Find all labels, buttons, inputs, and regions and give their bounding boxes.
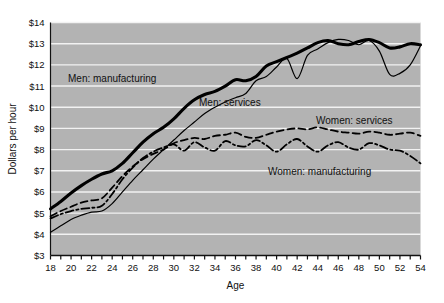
x-axis-tick-label: 50 — [374, 262, 385, 273]
y-axis-tick-label: $6 — [34, 186, 45, 197]
y-axis-title: Dollars per hour — [7, 103, 18, 175]
y-axis-tick-label: $4 — [34, 229, 45, 240]
x-axis-tick-label: 34 — [210, 262, 221, 273]
y-axis-tick-label: $3 — [34, 250, 45, 261]
x-axis-tick-label: 48 — [354, 262, 365, 273]
x-axis-tick-label: 24 — [107, 262, 118, 273]
y-axis-tick-label: $10 — [29, 102, 45, 113]
x-axis-tick-label: 20 — [66, 262, 77, 273]
x-axis-tick-label: 36 — [230, 262, 241, 273]
plot-area-background — [51, 23, 421, 256]
series-annotation-label: Women: manufacturing — [268, 166, 371, 177]
x-axis-tick-label: 46 — [333, 262, 344, 273]
x-axis-tick-label: 44 — [312, 262, 323, 273]
y-axis-tick-label: $9 — [34, 123, 45, 134]
y-axis-tick-label: $5 — [34, 208, 45, 219]
chart-container: $3$4$5$6$7$8$9$10$11$12$13$14 1820222426… — [0, 0, 444, 303]
x-axis-tick-label: 42 — [292, 262, 303, 273]
y-axis-tick-label: $13 — [29, 38, 45, 49]
x-axis-tick-label: 52 — [395, 262, 406, 273]
y-axis-tick-label: $7 — [34, 165, 45, 176]
x-axis-title: Age — [227, 280, 245, 291]
x-axis-tick-label: 22 — [86, 262, 97, 273]
y-axis-tick-label: $14 — [29, 17, 45, 28]
series-annotation-label: Women: services — [316, 115, 393, 126]
x-axis-tick-label: 28 — [148, 262, 159, 273]
line-chart-figure: $3$4$5$6$7$8$9$10$11$12$13$14 1820222426… — [0, 0, 444, 303]
x-axis-tick-label: 38 — [251, 262, 262, 273]
x-axis-tick-label: 40 — [271, 262, 282, 273]
series-annotation-label: Men: manufacturing — [68, 73, 156, 84]
x-axis-tick-label: 18 — [45, 262, 56, 273]
series-annotation-label: Men: services — [199, 97, 261, 108]
y-axis-tick-label: $8 — [34, 144, 45, 155]
x-axis-tick-label: 32 — [189, 262, 200, 273]
x-axis-tick-label: 26 — [127, 262, 138, 273]
x-axis-tick-label: 30 — [169, 262, 180, 273]
y-axis-tick-label: $12 — [29, 59, 45, 70]
y-axis-tick-label: $11 — [29, 81, 44, 92]
x-axis-tick-label: 54 — [415, 262, 426, 273]
